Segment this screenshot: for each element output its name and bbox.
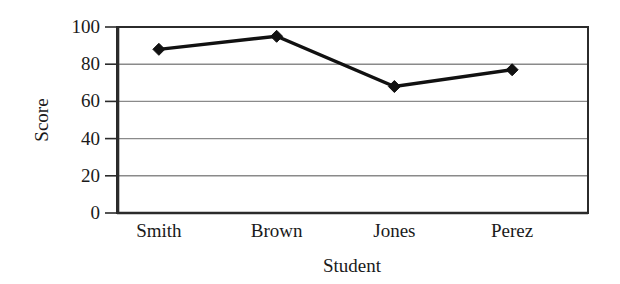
y-tick-label-20: 20 bbox=[81, 165, 100, 186]
line-chart: 020406080100 SmithBrownJonesPerez Studen… bbox=[0, 0, 620, 284]
y-axis-tickmarks bbox=[105, 27, 117, 213]
x-axis-category-labels: SmithBrownJonesPerez bbox=[136, 220, 533, 241]
y-tick-label-40: 40 bbox=[81, 128, 100, 149]
y-tick-label-60: 60 bbox=[81, 90, 100, 111]
x-axis-title: Student bbox=[323, 255, 382, 276]
y-tick-label-80: 80 bbox=[81, 53, 100, 74]
chart-canvas: 020406080100 SmithBrownJonesPerez Studen… bbox=[0, 0, 620, 284]
y-axis-tick-labels: 020406080100 bbox=[72, 16, 101, 223]
x-label-Perez: Perez bbox=[491, 220, 533, 241]
y-tick-label-0: 0 bbox=[91, 202, 101, 223]
x-label-Smith: Smith bbox=[136, 220, 182, 241]
x-label-Brown: Brown bbox=[251, 220, 303, 241]
y-axis-title: Score bbox=[31, 98, 52, 141]
plot-area-background bbox=[117, 27, 588, 213]
x-label-Jones: Jones bbox=[373, 220, 415, 241]
y-tick-label-100: 100 bbox=[72, 16, 101, 37]
